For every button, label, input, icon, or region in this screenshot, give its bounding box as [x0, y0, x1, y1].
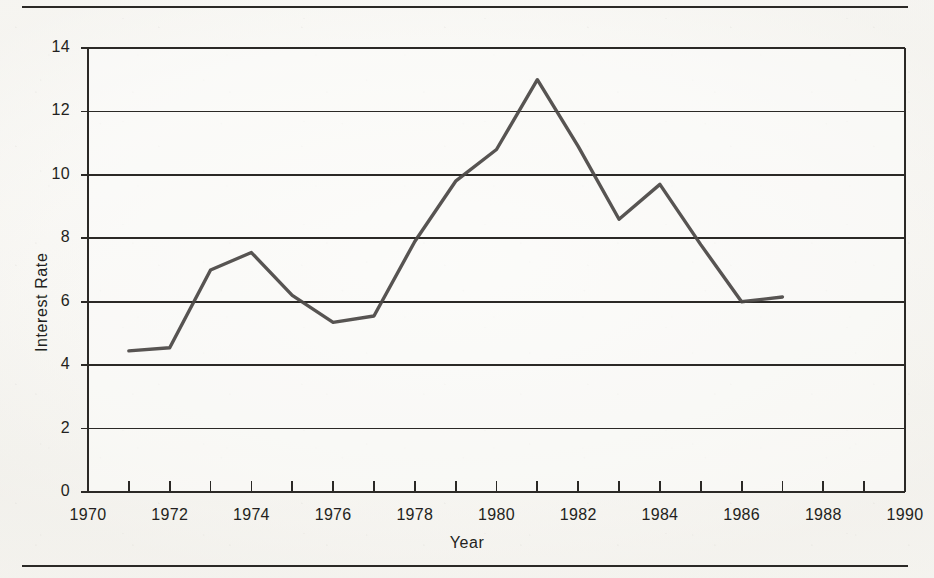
- line-chart-figure: Interest Rate Year 02468101214 197019721…: [0, 0, 934, 578]
- y-tick-label-4: 4: [36, 355, 70, 373]
- x-tick-label-1974: 1974: [216, 506, 286, 524]
- y-tick-label-2: 2: [36, 419, 70, 437]
- x-tick-label-1972: 1972: [135, 506, 205, 524]
- y-tick-label-12: 12: [36, 101, 70, 119]
- x-tick-label-1976: 1976: [298, 506, 368, 524]
- x-tick-label-1988: 1988: [788, 506, 858, 524]
- y-tick-label-6: 6: [36, 292, 70, 310]
- x-tick-label-1970: 1970: [53, 506, 123, 524]
- x-tick-label-1986: 1986: [707, 506, 777, 524]
- x-tick-label-1982: 1982: [543, 506, 613, 524]
- x-tick-label-1984: 1984: [625, 506, 695, 524]
- y-axis-ticks: [81, 48, 88, 492]
- x-axis-title: Year: [0, 534, 934, 552]
- y-tick-label-10: 10: [36, 165, 70, 183]
- chart-canvas: [0, 0, 934, 578]
- x-tick-label-1980: 1980: [462, 506, 532, 524]
- y-tick-label-14: 14: [36, 38, 70, 56]
- y-tick-label-8: 8: [36, 228, 70, 246]
- y-tick-label-0: 0: [36, 482, 70, 500]
- x-tick-label-1990: 1990: [870, 506, 934, 524]
- x-tick-label-1978: 1978: [380, 506, 450, 524]
